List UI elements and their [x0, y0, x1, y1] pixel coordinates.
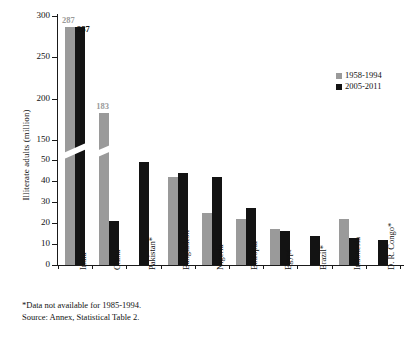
data-label-india-2005-2011: 287: [77, 25, 90, 34]
x-label-china: China: [113, 250, 122, 270]
x-label-drcongo: D. R. Congo*: [387, 223, 396, 270]
y-tick-label-40: 40: [24, 176, 50, 185]
y-tick-label-10: 10: [24, 239, 50, 248]
data-label-india-1958-1994: 287: [62, 16, 75, 25]
bar-egypt-1958-1994: [270, 229, 280, 265]
x-tick-5: [229, 265, 230, 269]
y-tick-200: [52, 99, 58, 100]
bar-china-1958-1994: [99, 113, 109, 265]
footnote-note: *Data not available for 1985-1994.: [22, 300, 141, 312]
x-tick-7: [297, 265, 298, 269]
legend-item-1958-1994: 1958-1994: [336, 70, 382, 81]
legend-swatch-1958-1994: [336, 73, 342, 79]
y-tick-label-300: 300: [24, 11, 50, 20]
bar-nigeria-1958-1994: [202, 213, 212, 266]
y-tick-150: [52, 140, 58, 141]
x-tick-8: [332, 265, 333, 269]
x-label-indonesia: Indonesia: [353, 237, 362, 270]
y-tick-label-50: 50: [24, 155, 50, 164]
y-tick-50: [52, 160, 58, 161]
x-label-pakistan: Pakistan*: [148, 237, 157, 270]
y-tick-label-0: 0: [24, 260, 50, 269]
bar-chart: Illiterate adults (million) 010203040501…: [0, 0, 420, 340]
y-tick-label-150: 150: [24, 135, 50, 144]
legend-label-2005-2011: 2005-2011: [345, 81, 382, 92]
x-tick-4: [195, 265, 196, 269]
x-label-bangladesh: Bangladesh: [182, 230, 191, 270]
x-label-egypt: Egypt: [284, 250, 293, 270]
x-tick-10: [400, 265, 401, 269]
y-tick-300: [52, 16, 58, 17]
y-tick-30: [52, 202, 58, 203]
data-label-china-1958-1994: 183: [96, 102, 109, 111]
bar-bangladesh-1958-1994: [168, 177, 178, 265]
y-tick-label-250: 250: [24, 52, 50, 61]
x-tick-1: [92, 265, 93, 269]
y-tick-10: [52, 244, 58, 245]
legend: 1958-19942005-2011: [336, 70, 382, 92]
x-label-india: India: [79, 253, 88, 270]
y-tick-label-20: 20: [24, 218, 50, 227]
y-tick-250: [52, 57, 58, 58]
x-tick-0: [58, 265, 59, 269]
x-label-brazil: Brazil*: [319, 245, 328, 270]
bar-indonesia-1958-1994: [339, 219, 349, 265]
x-tick-6: [263, 265, 264, 269]
x-label-ethiopia: Ethiopia: [250, 241, 259, 270]
x-tick-9: [366, 265, 367, 269]
footnotes: *Data not available for 1985-1994. Sourc…: [22, 300, 141, 323]
x-label-nigeria: Nigeria: [216, 245, 225, 271]
legend-label-1958-1994: 1958-1994: [345, 70, 382, 81]
legend-swatch-2005-2011: [336, 84, 342, 90]
y-tick-40: [52, 181, 58, 182]
bar-india-1958-1994: [65, 27, 75, 265]
bar-ethiopia-1958-1994: [236, 219, 246, 265]
y-tick-label-200: 200: [24, 94, 50, 103]
legend-item-2005-2011: 2005-2011: [336, 81, 382, 92]
x-tick-2: [126, 265, 127, 269]
y-tick-label-30: 30: [24, 197, 50, 206]
x-tick-3: [161, 265, 162, 269]
footnote-source: Source: Annex, Statistical Table 2.: [22, 312, 141, 324]
y-tick-20: [52, 223, 58, 224]
